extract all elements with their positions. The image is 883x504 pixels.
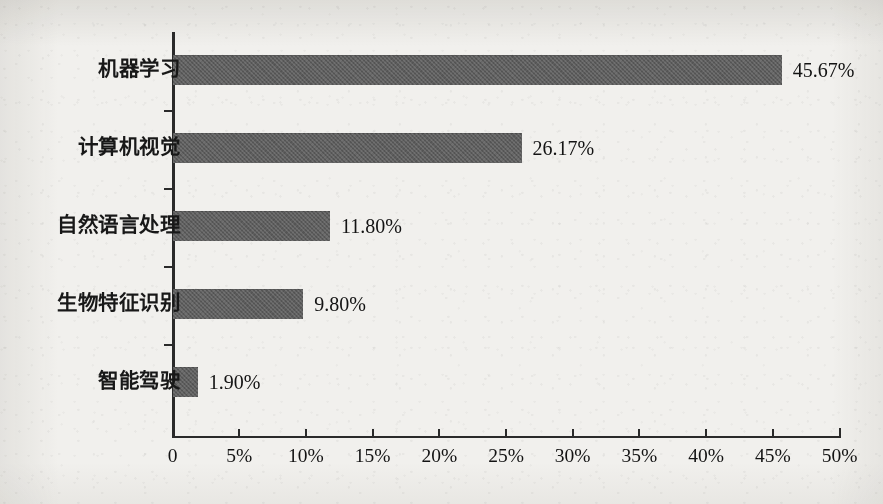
x-axis-tick (772, 429, 774, 437)
x-axis-tick-label: 50% (805, 446, 875, 466)
x-axis-tick-label: 25% (471, 446, 541, 466)
category-label: 智能驾驶 (0, 371, 180, 392)
x-axis-tick-label: 10% (271, 446, 341, 466)
x-axis-tick (238, 429, 240, 437)
x-axis-tick (705, 429, 707, 437)
x-axis-tick-label: 15% (338, 446, 408, 466)
y-axis-tick (164, 266, 173, 268)
y-axis-tick (164, 344, 173, 346)
x-axis-tick-label: 30% (538, 446, 608, 466)
x-axis-tick-label: 35% (604, 446, 674, 466)
bar-value-label: 26.17% (533, 138, 595, 158)
category-label: 计算机视觉 (0, 137, 180, 158)
x-axis-tick (572, 429, 574, 437)
x-axis-tick (305, 429, 307, 437)
category-label: 自然语言处理 (0, 215, 180, 236)
bar-value-label: 9.80% (314, 294, 366, 314)
bar-value-label: 11.80% (341, 216, 402, 236)
x-axis-tick (438, 429, 440, 437)
x-axis-tick-label: 0 (138, 446, 208, 466)
x-axis-tick-label: 40% (671, 446, 741, 466)
x-axis-tick (505, 429, 507, 437)
x-axis-origin-cap (172, 428, 174, 437)
x-axis-tick-label: 45% (738, 446, 808, 466)
x-axis-tick-label: 20% (404, 446, 474, 466)
horizontal-bar-chart: 45.67%机器学习26.17%计算机视觉11.80%自然语言处理9.80%生物… (0, 0, 883, 504)
bar-2 (173, 133, 522, 163)
x-axis-tick (638, 429, 640, 437)
x-axis-end-cap (839, 428, 841, 437)
bar-value-label: 45.67% (793, 60, 855, 80)
bar-4 (173, 289, 304, 319)
bar-1 (173, 55, 782, 85)
bar-value-label: 1.90% (209, 372, 261, 392)
y-axis-tick (164, 110, 173, 112)
x-axis-tick-label: 5% (204, 446, 274, 466)
y-axis-tick (164, 188, 173, 190)
x-axis-tick (372, 429, 374, 437)
bar-3 (173, 211, 330, 241)
category-label: 生物特征识别 (0, 293, 180, 314)
category-label: 机器学习 (0, 59, 180, 80)
